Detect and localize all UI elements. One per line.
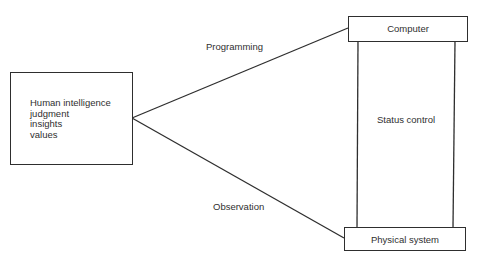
human-line-3: insights — [30, 119, 111, 130]
human-intelligence-text: Human intelligence judgment insights val… — [30, 98, 111, 140]
status-control-left-edge — [357, 41, 358, 227]
observation-label: Observation — [213, 201, 264, 212]
human-line-4: values — [30, 130, 111, 141]
programming-label: Programming — [206, 41, 263, 52]
physical-system-box: Physical system — [344, 227, 466, 251]
status-control-right-edge — [453, 41, 455, 227]
computer-box: Computer — [348, 16, 468, 42]
human-line-1: Human intelligence — [30, 98, 111, 109]
human-intelligence-box: Human intelligence judgment insights val… — [10, 72, 133, 165]
status-control-label: Status control — [377, 114, 435, 125]
observation-edge — [132, 118, 344, 238]
physical-system-label: Physical system — [345, 234, 465, 245]
computer-label: Computer — [349, 23, 467, 34]
